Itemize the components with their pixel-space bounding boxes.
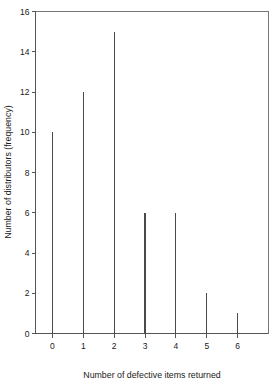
x-tick-label: 4 — [174, 341, 179, 351]
x-tick-label: 5 — [204, 341, 209, 351]
y-tick-label: 4 — [25, 248, 30, 258]
y-axis-title: Number of distributors (frequency) — [3, 105, 13, 239]
x-axis-title: Number of defective items returned — [83, 370, 220, 380]
y-tick-label: 0 — [25, 329, 30, 339]
chart-container: 0246810121416 0123456 Number of defectiv… — [0, 0, 279, 385]
y-tick-label: 16 — [20, 7, 30, 17]
y-tick-label: 8 — [25, 168, 30, 178]
frequency-spike-chart: 0246810121416 0123456 Number of defectiv… — [0, 0, 279, 385]
x-tick-label: 6 — [235, 341, 240, 351]
x-tick-label: 2 — [112, 341, 117, 351]
y-tick-label: 2 — [25, 288, 30, 298]
x-tick-label: 0 — [50, 341, 55, 351]
y-tick-label: 10 — [20, 127, 30, 137]
y-tick-label: 12 — [20, 87, 30, 97]
x-tick-label: 1 — [81, 341, 86, 351]
y-tick-label: 6 — [25, 208, 30, 218]
x-tick-label: 3 — [143, 341, 148, 351]
y-tick-label: 14 — [20, 47, 30, 57]
